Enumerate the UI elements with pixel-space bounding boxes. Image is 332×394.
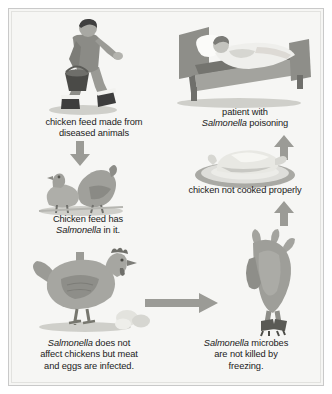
caption-line-italic: Salmonella poisoning — [169, 118, 321, 129]
caption-line: freezing. — [171, 361, 321, 372]
caption-tail: microbes — [249, 338, 288, 348]
italic-term: Salmonella — [204, 338, 249, 348]
caption-tail: in it. — [101, 225, 120, 235]
caption-undercooked-chicken: chicken not cooked properly — [169, 185, 321, 196]
caption-line: are not killed by — [171, 349, 321, 360]
italic-term: Salmonella — [202, 118, 247, 128]
caption-sick-patient: patient with Salmonella poisoning — [169, 107, 321, 130]
caption-line: affect chickens but meat — [11, 349, 167, 360]
italic-term: Salmonella — [48, 338, 93, 348]
diagram-page: chicken feed made from diseased animals — [0, 0, 332, 394]
farmer-carrying-feed-bucket-illustration — [31, 17, 141, 117]
caption-line: chicken feed made from — [13, 117, 175, 128]
caption-feed-source: chicken feed made from diseased animals — [13, 117, 175, 140]
caption-contaminated-feed: Chicken feed has Salmonella in it. — [13, 214, 163, 237]
caption-line-italic: Salmonella does not — [11, 338, 167, 349]
hanging-plucked-chicken-illustration — [225, 227, 315, 339]
caption-line-italic: Salmonella microbes — [171, 338, 321, 349]
patient-in-hospital-bed-illustration — [157, 17, 322, 109]
caption-line: and eggs are infected. — [11, 361, 167, 372]
edge-hen-to-frozen — [145, 293, 219, 313]
two-birds-feeding-illustration — [23, 159, 138, 217]
roast-chicken-on-plate-illustration — [187, 141, 307, 189]
caption-line: diseased animals — [13, 128, 175, 139]
caption-line-italic: Salmonella in it. — [13, 225, 163, 236]
caption-tail: poisoning — [247, 118, 288, 128]
hen-with-eggs-illustration — [23, 245, 153, 335]
caption-infected-chicken: Salmonella does not affect chickens but … — [11, 338, 167, 372]
caption-line: patient with — [169, 107, 321, 118]
diagram-frame: chicken feed made from diseased animals — [8, 8, 324, 386]
caption-line: chicken not cooked properly — [169, 185, 321, 196]
caption-frozen-chicken: Salmonella microbes are not killed by fr… — [171, 338, 321, 372]
caption-tail: does not — [93, 338, 130, 348]
caption-line: Chicken feed has — [13, 214, 163, 225]
italic-term: Salmonella — [56, 225, 101, 235]
edge-frozen-to-cooked — [273, 201, 295, 227]
